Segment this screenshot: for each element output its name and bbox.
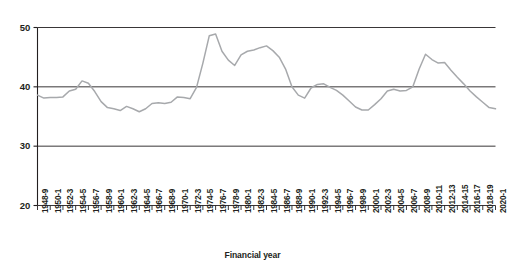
x-axis-tick-label: 2010-11 bbox=[435, 185, 444, 213]
x-axis-tick-label: 1948-9 bbox=[41, 189, 50, 213]
x-axis-tick-label: 1988-9 bbox=[295, 189, 304, 213]
x-axis-tick-label: 1962-3 bbox=[130, 189, 139, 213]
x-axis-tick-label: 1978-9 bbox=[232, 189, 241, 213]
x-axis-tick-label: 1966-7 bbox=[155, 189, 164, 213]
x-axis-tick-label: 2008-9 bbox=[423, 189, 432, 213]
x-axis-tick-label: 1976-7 bbox=[219, 189, 228, 213]
x-axis-tick-label: 1972-3 bbox=[194, 189, 203, 213]
x-axis-tick-label: 1968-9 bbox=[168, 189, 177, 213]
x-axis-tick-label: 1974-5 bbox=[206, 189, 215, 213]
y-axis-tick-label: 20 bbox=[8, 200, 30, 211]
x-axis-tick-label: 2002-3 bbox=[384, 189, 393, 213]
x-axis-tick-label: 1954-5 bbox=[79, 189, 88, 213]
x-axis-tick-label: 1998-9 bbox=[359, 189, 368, 213]
x-axis-tick-label: 1956-7 bbox=[92, 189, 101, 213]
x-axis-tick-label: 2000-1 bbox=[372, 189, 381, 213]
x-axis-tick-label: 1984-5 bbox=[270, 189, 279, 213]
x-axis-tick-label: 2016-17 bbox=[473, 184, 482, 212]
x-axis-tick-label: 1950-1 bbox=[54, 189, 63, 213]
x-axis-tick-label: 1964-5 bbox=[143, 189, 152, 213]
x-axis-tick-label: 2012-13 bbox=[448, 184, 457, 212]
x-axis-tick-label: 1960-1 bbox=[117, 189, 126, 213]
x-axis-tick-label: 1952-3 bbox=[66, 189, 75, 213]
x-axis-tick-label: 1986-7 bbox=[283, 189, 292, 213]
x-axis-tick-label: 1970-1 bbox=[181, 189, 190, 213]
y-axis-tick-label: 30 bbox=[8, 140, 30, 151]
data-series-line bbox=[38, 34, 496, 112]
x-axis-tick-label: 1994-5 bbox=[334, 189, 343, 213]
y-axis-tick-label: 50 bbox=[8, 22, 30, 33]
x-axis-tick-label: 2020-1 bbox=[499, 189, 508, 213]
x-axis-tick-label: 2006-7 bbox=[410, 189, 419, 213]
x-axis-tick-label: 2014-15 bbox=[461, 184, 470, 212]
x-axis-tick-label: 2004-5 bbox=[397, 189, 406, 213]
x-axis-title: Financial year bbox=[0, 250, 505, 260]
x-axis-tick-label: 1980-1 bbox=[244, 189, 253, 213]
x-axis-tick-label: 1992-3 bbox=[321, 189, 330, 213]
y-axis-tick-label: 40 bbox=[8, 81, 30, 92]
x-axis-tick-label: 2018-19 bbox=[486, 184, 495, 212]
x-axis-tick-label: 1982-3 bbox=[257, 189, 266, 213]
x-axis-tick-label: 1996-7 bbox=[346, 189, 355, 213]
x-axis-tick-label: 1958-9 bbox=[105, 189, 114, 213]
x-axis-tick-label: 1990-1 bbox=[308, 189, 317, 213]
